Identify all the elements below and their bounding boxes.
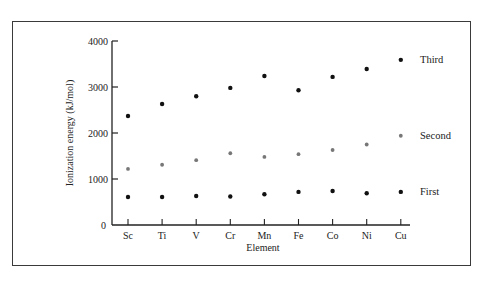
y-tick-label: 3000 (88, 82, 108, 93)
data-point-first (330, 189, 334, 193)
x-tick-label: Fe (294, 230, 305, 241)
y-tick-label: 1000 (88, 174, 108, 185)
data-point-second (297, 152, 301, 156)
data-point-first (160, 195, 164, 199)
x-tick-label: Ni (362, 230, 372, 241)
data-point-third (365, 67, 369, 71)
x-tick-label: Cu (395, 230, 407, 241)
data-point-first (194, 194, 198, 198)
data-point-first (126, 195, 130, 199)
x-tick-label: V (193, 230, 201, 241)
data-point-first (296, 190, 300, 194)
x-tick-label: Ti (158, 230, 167, 241)
data-point-third (228, 86, 232, 90)
data-point-second (263, 155, 267, 159)
data-point-third (126, 114, 130, 118)
y-tick-label: 0 (101, 220, 106, 231)
data-point-second (331, 148, 335, 152)
data-point-third (330, 75, 334, 79)
data-point-first (228, 194, 232, 198)
y-axis-ticks: 01000200030004000 (88, 36, 118, 231)
data-point-first (399, 190, 403, 194)
data-point-third (262, 74, 266, 78)
data-point-third (296, 88, 300, 92)
y-tick-label: 4000 (88, 36, 108, 47)
x-tick-label: Mn (257, 230, 271, 241)
scatter-chart: 01000200030004000 ScTiVCrMnFeCoNiCu Firs… (0, 0, 482, 282)
x-tick-label: Co (327, 230, 339, 241)
data-point-first (262, 192, 266, 196)
data-point-second (228, 151, 232, 155)
data-point-second (399, 134, 403, 138)
data-point-third (160, 102, 164, 106)
series-label-first: First (420, 186, 439, 197)
data-points (126, 58, 403, 199)
x-tick-label: Cr (225, 230, 236, 241)
data-point-third (194, 94, 198, 98)
y-axis-label: Ionization energy (kJ/mol) (64, 80, 76, 186)
series-label-second: Second (420, 130, 452, 141)
data-point-second (194, 158, 198, 162)
series-labels: FirstSecondThird (420, 54, 452, 197)
y-tick-label: 2000 (88, 128, 108, 139)
series-label-third: Third (420, 54, 444, 65)
x-tick-label: Sc (123, 230, 134, 241)
data-point-second (126, 167, 130, 171)
x-axis-ticks: ScTiVCrMnFeCoNiCu (123, 219, 407, 241)
x-axis-label: Element (246, 242, 280, 253)
data-point-first (365, 191, 369, 195)
data-point-third (399, 58, 403, 62)
data-point-second (365, 143, 369, 147)
data-point-second (160, 163, 164, 167)
